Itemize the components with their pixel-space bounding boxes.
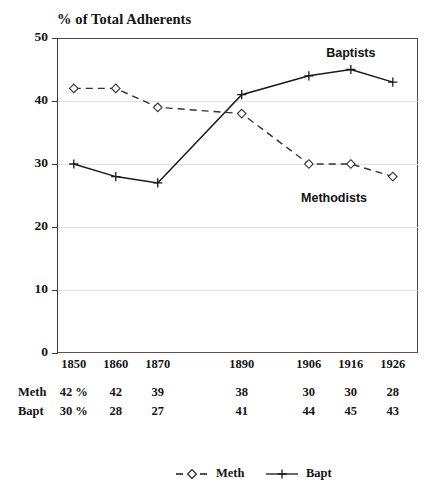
table-cell: 44 <box>303 404 316 419</box>
y-tick-label: 0 <box>22 344 48 360</box>
table-row-label: Meth <box>18 385 46 400</box>
y-tick-label: 40 <box>22 92 48 108</box>
data-table: Meth42 %423938303028Bapt30 %282741444543 <box>0 385 440 423</box>
table-cell: 43 <box>387 404 400 419</box>
gridline <box>57 164 418 165</box>
legend-marker-open-diamond <box>175 468 209 480</box>
table-cell: 28 <box>387 385 400 400</box>
y-axis-line <box>57 38 58 353</box>
legend-entry[interactable]: Bapt <box>265 466 332 481</box>
x-tick-label: 1850 <box>61 357 86 372</box>
gridline <box>57 101 418 102</box>
y-tick-label: 20 <box>22 218 48 234</box>
legend-label: Meth <box>216 466 244 481</box>
x-tick-label: 1926 <box>380 357 405 372</box>
table-cell: 45 <box>345 404 358 419</box>
table-cell: 30 <box>345 385 358 400</box>
y-tick-label: 50 <box>22 29 48 45</box>
table-cell: 30 % <box>60 404 88 419</box>
table-cell: 38 <box>235 385 248 400</box>
chart-legend: MethBapt <box>0 466 440 488</box>
y-tick-mark <box>52 164 58 165</box>
table-cell: 39 <box>151 385 164 400</box>
table-cell: 27 <box>151 404 164 419</box>
table-cell: 28 <box>110 404 123 419</box>
x-tick-label: 1860 <box>103 357 128 372</box>
gridline <box>57 290 418 291</box>
table-cell: 42 % <box>60 385 88 400</box>
y-tick-mark <box>52 290 58 291</box>
chart-title: % of Total Adherents <box>57 11 191 28</box>
legend-entry[interactable]: Meth <box>175 466 244 481</box>
table-row: Meth42 %423938303028 <box>0 385 440 404</box>
x-axis-line <box>57 352 418 353</box>
y-tick-mark <box>52 38 58 39</box>
x-tick-label: 1916 <box>338 357 363 372</box>
y-tick-mark <box>52 101 58 102</box>
y-tick-label: 10 <box>22 281 48 297</box>
table-row-label: Bapt <box>18 404 44 419</box>
table-cell: 41 <box>235 404 248 419</box>
y-tick-label: 30 <box>22 155 48 171</box>
gridline <box>57 227 418 228</box>
legend-label: Bapt <box>306 466 332 481</box>
table-cell: 42 <box>110 385 123 400</box>
x-tick-label: 1890 <box>229 357 254 372</box>
x-tick-label: 1870 <box>145 357 170 372</box>
x-tick-label: 1906 <box>296 357 321 372</box>
table-cell: 30 <box>303 385 316 400</box>
plot-border-top <box>57 38 418 39</box>
plot-border-right <box>417 38 418 353</box>
series-annotation: Baptists <box>326 46 375 60</box>
y-tick-mark <box>52 353 58 354</box>
y-tick-mark <box>52 227 58 228</box>
table-row: Bapt30 %282741444543 <box>0 404 440 423</box>
chart-root: % of Total Adherents 01020304050 1850186… <box>0 0 440 499</box>
legend-marker-plus <box>265 468 299 480</box>
series-annotation: Methodists <box>301 191 367 205</box>
